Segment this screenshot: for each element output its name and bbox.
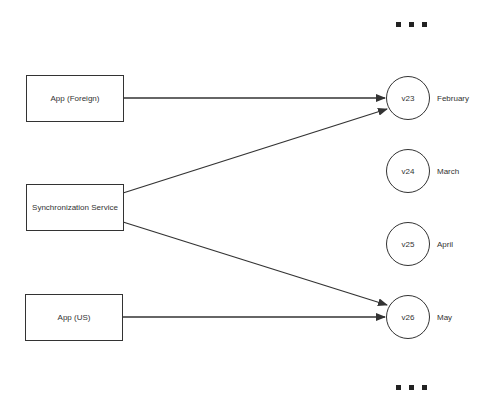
node-sync-service: Synchronization Service	[26, 184, 124, 231]
version-label: v24	[402, 167, 415, 176]
dot-icon	[409, 22, 414, 27]
dot-icon	[422, 385, 427, 390]
node-app-us: App (US)	[25, 294, 123, 341]
version-v23: v23	[386, 76, 430, 120]
node-label: Synchronization Service	[32, 203, 118, 212]
edge-sync-to-v26	[123, 222, 387, 305]
month-label: April	[437, 240, 453, 249]
node-app-foreign: App (Foreign)	[26, 75, 124, 122]
version-label: v26	[402, 313, 415, 322]
dot-icon	[396, 385, 401, 390]
version-v26: v26	[386, 295, 430, 339]
dot-icon	[396, 22, 401, 27]
dot-icon	[409, 385, 414, 390]
node-label: App (Foreign)	[51, 94, 100, 103]
month-label: February	[437, 94, 469, 103]
dot-icon	[422, 22, 427, 27]
edge-sync-to-v23	[123, 109, 387, 193]
version-v24: v24	[386, 149, 430, 193]
version-v25: v25	[386, 222, 430, 266]
version-label: v25	[402, 240, 415, 249]
month-label: May	[437, 313, 452, 322]
node-label: App (US)	[58, 313, 91, 322]
version-label: v23	[402, 94, 415, 103]
month-label: March	[437, 167, 459, 176]
